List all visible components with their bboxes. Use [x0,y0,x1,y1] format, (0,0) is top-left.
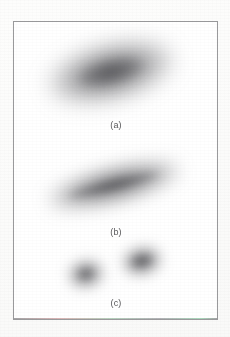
panel-label-c: (c) [96,298,136,308]
plate-frame: (a)(b)(c) [13,21,218,320]
spot-b-main-halo [44,152,184,218]
plate-surface: (a)(b)(c) [14,22,217,319]
panel-label-b: (b) [96,227,136,237]
spot-b-main-core [67,169,161,201]
spot-c-left-core [77,267,95,280]
spot-a-main-core [76,53,145,90]
spot-a-main-halo [42,30,179,113]
spot-c-right-core [130,254,154,268]
frame-bottom-edge [14,318,217,320]
spot-c-right-halo [120,243,165,279]
figure-page: (a)(b)(c) [0,0,230,337]
panel-label-a: (a) [96,120,136,130]
spot-c-left-halo [65,257,106,292]
